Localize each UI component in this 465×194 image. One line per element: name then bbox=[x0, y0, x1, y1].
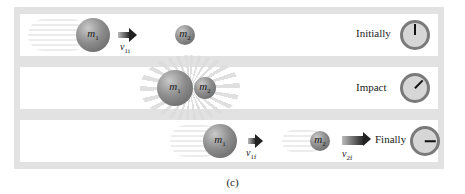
stage-label: Initially bbox=[356, 27, 391, 39]
velocity-label: v1i bbox=[120, 41, 130, 55]
figure-frame: m1 v1i m2 Initially m1 m2 Impact m1 v1f bbox=[14, 7, 444, 169]
mass2-ball: m2 bbox=[194, 77, 216, 99]
stage-label: Impact bbox=[356, 81, 387, 93]
velocity-arrow-icon bbox=[118, 32, 130, 38]
mass1-ball: m1 bbox=[203, 124, 237, 158]
stage-label: Finally bbox=[375, 133, 406, 145]
mass1-subscript: 1 bbox=[95, 35, 99, 43]
velocity2-arrow-icon bbox=[342, 136, 364, 145]
clock-icon bbox=[410, 126, 440, 156]
figure-caption: (c) bbox=[0, 176, 465, 188]
panel-initially: m1 v1i m2 Initially bbox=[20, 14, 438, 56]
mass2-subscript: 2 bbox=[187, 35, 191, 43]
panel-impact: m1 m2 Impact bbox=[20, 67, 438, 109]
mass1-subscript: 1 bbox=[177, 88, 181, 96]
velocity1-subscript: 1f bbox=[250, 153, 256, 161]
velocity2-subscript: 2f bbox=[346, 154, 352, 162]
mass1-ball: m1 bbox=[157, 70, 193, 106]
mass2-subscript: 2 bbox=[207, 88, 211, 96]
clock-icon bbox=[400, 20, 430, 50]
clock-hand bbox=[414, 24, 416, 35]
clock-hand bbox=[425, 140, 436, 142]
mass2-ball: m2 bbox=[175, 25, 195, 45]
mass2-subscript: 2 bbox=[322, 141, 326, 149]
mass1-subscript: 1 bbox=[222, 141, 226, 149]
clock-hand bbox=[414, 80, 423, 89]
mass1-ball: m1 bbox=[76, 18, 110, 52]
velocity1-label: v1f bbox=[246, 147, 256, 161]
velocity-subscript: 1i bbox=[124, 47, 129, 55]
panel-finally: m1 v1f m2 v2f Finally bbox=[20, 120, 438, 162]
clock-icon bbox=[400, 73, 430, 103]
velocity1-arrow-icon bbox=[248, 138, 256, 144]
velocity2-label: v2f bbox=[342, 148, 352, 162]
mass2-ball: m2 bbox=[310, 131, 330, 151]
